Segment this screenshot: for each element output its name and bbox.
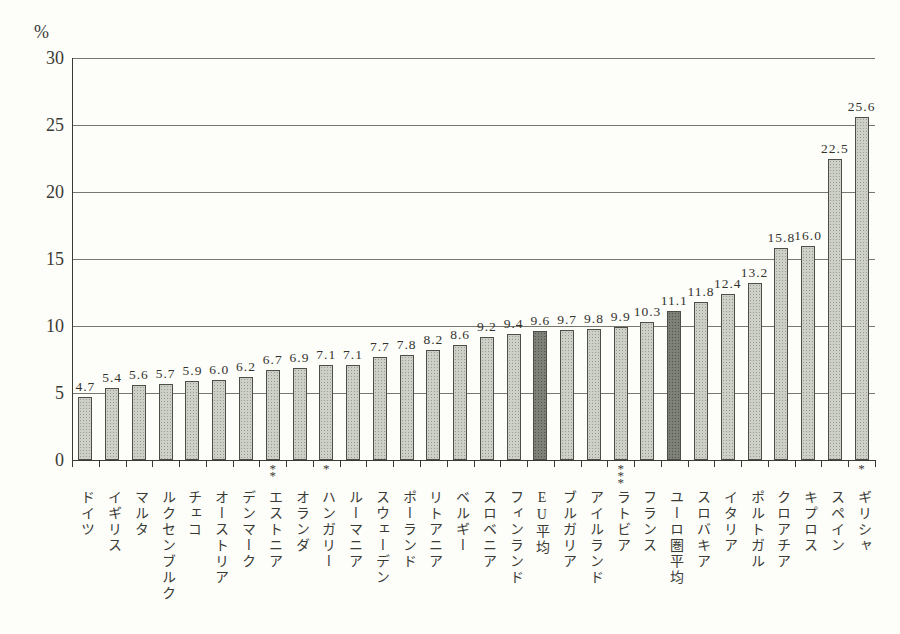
x-tick — [661, 460, 662, 467]
category-label: ルクセンブルク — [157, 490, 177, 602]
x-tick — [259, 460, 260, 467]
x-tick — [366, 460, 367, 467]
x-tick — [714, 460, 715, 467]
category-label: フィンランド — [505, 490, 525, 586]
bar — [694, 302, 708, 460]
bar-value-label: 13.2 — [731, 265, 779, 281]
category-label: ポーランド — [398, 490, 418, 570]
bar — [266, 370, 280, 460]
x-tick — [821, 460, 822, 467]
bar — [480, 337, 494, 460]
x-tick — [206, 460, 207, 467]
category-label: ベルギー — [451, 490, 471, 554]
category-label: ラトビア — [612, 490, 632, 554]
category-label: エストニア — [264, 490, 284, 570]
bar — [507, 334, 521, 460]
x-tick — [72, 460, 73, 467]
y-tick-label: 15 — [24, 250, 64, 268]
bar — [319, 365, 333, 460]
x-tick — [581, 460, 582, 467]
x-tick — [179, 460, 180, 467]
y-axis-unit-label: % — [34, 22, 49, 43]
y-grid-line — [72, 259, 875, 260]
y-tick-label: 0 — [24, 451, 64, 469]
category-label: アイルランド — [585, 490, 605, 586]
bar — [132, 385, 146, 460]
category-label: リトアニア — [424, 490, 444, 570]
x-tick — [848, 460, 849, 467]
x-tick — [126, 460, 127, 467]
bar — [748, 283, 762, 460]
category-label: ドイツ — [76, 490, 96, 538]
category-label: スロベニア — [478, 490, 498, 570]
bar — [78, 397, 92, 460]
bar — [453, 345, 467, 460]
footnote-mark: * — [854, 465, 870, 472]
y-tick-label: 5 — [24, 384, 64, 402]
x-tick — [447, 460, 448, 467]
category-label: ギリシャ — [853, 490, 873, 554]
bar — [855, 117, 869, 460]
category-label: ポルトガル — [746, 490, 766, 570]
bar — [640, 322, 654, 460]
x-tick — [607, 460, 608, 467]
bar-value-label: 25.6 — [838, 99, 886, 115]
category-label: EU平均 — [531, 490, 551, 556]
bar — [533, 331, 547, 460]
y-tick-label: 10 — [24, 317, 64, 335]
category-label: フランス — [638, 490, 658, 554]
y-axis-line — [72, 58, 73, 460]
bar — [185, 381, 199, 460]
x-tick — [286, 460, 287, 467]
category-label: ブルガリア — [558, 490, 578, 570]
y-tick-label: 25 — [24, 116, 64, 134]
category-label: イタリア — [719, 490, 739, 554]
category-label: マルタ — [130, 490, 150, 538]
y-grid-line — [72, 125, 875, 126]
footnote-mark: * — [318, 465, 334, 472]
x-tick — [313, 460, 314, 467]
bar — [721, 294, 735, 460]
x-tick — [554, 460, 555, 467]
bar — [212, 380, 226, 460]
footnote-mark: ** — [265, 465, 281, 479]
bar — [105, 388, 119, 460]
bar — [159, 384, 173, 460]
category-label: オランダ — [291, 490, 311, 554]
bar — [239, 377, 253, 460]
y-tick-label: 20 — [24, 183, 64, 201]
x-tick — [340, 460, 341, 467]
bar — [614, 327, 628, 460]
bar — [801, 246, 815, 460]
x-tick — [795, 460, 796, 467]
bar — [293, 368, 307, 460]
category-label: クロアチア — [772, 490, 792, 570]
bar — [667, 311, 681, 460]
bar-value-label: 22.5 — [811, 141, 859, 157]
category-label: スウェーデン — [371, 490, 391, 586]
x-tick — [420, 460, 421, 467]
x-tick — [741, 460, 742, 467]
bar — [400, 355, 414, 460]
x-tick — [500, 460, 501, 467]
x-tick — [688, 460, 689, 467]
footnote-mark: *** — [613, 465, 629, 486]
category-label: ユーロ圏平均 — [665, 490, 685, 586]
bar — [560, 330, 574, 460]
bar — [373, 357, 387, 460]
x-tick — [634, 460, 635, 467]
bar — [426, 350, 440, 460]
x-tick — [99, 460, 100, 467]
category-label: デンマーク — [237, 490, 257, 570]
x-tick — [393, 460, 394, 467]
x-tick — [152, 460, 153, 467]
category-label: イギリス — [103, 490, 123, 554]
bar-chart: % 0510152025304.7ドイツ5.4イギリス5.6マルタ5.7ルクセン… — [0, 0, 900, 634]
x-tick — [875, 460, 876, 467]
bar-value-label: 16.0 — [784, 228, 832, 244]
y-grid-line — [72, 58, 875, 59]
x-tick — [527, 460, 528, 467]
category-label: オーストリア — [210, 490, 230, 586]
y-tick-label: 30 — [24, 49, 64, 67]
bar — [774, 248, 788, 460]
